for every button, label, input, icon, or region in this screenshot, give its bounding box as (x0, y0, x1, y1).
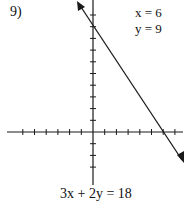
axis-ticks (23, 15, 175, 167)
arrowhead-down-icon (177, 151, 184, 163)
arrowhead-up-icon (77, 1, 85, 11)
coordinate-graph (0, 0, 186, 215)
equation-line (79, 4, 182, 160)
equation-label: 3x + 2y = 18 (60, 186, 132, 202)
